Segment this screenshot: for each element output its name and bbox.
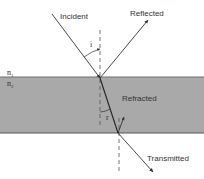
angle-i-label: i xyxy=(90,40,93,49)
transmitted-label: Transmitted xyxy=(147,154,189,163)
incident-ray xyxy=(52,14,100,78)
incident-label: Incident xyxy=(60,12,89,21)
transmitted-ray xyxy=(118,133,153,172)
reflected-ray xyxy=(100,20,148,78)
angle-r-label: r xyxy=(106,113,109,122)
angle-i-arc xyxy=(84,49,100,57)
n1-label: n1 xyxy=(7,68,14,78)
refracted-label: Refracted xyxy=(122,94,157,103)
optics-diagram: Incident Reflected Refracted Transmitted… xyxy=(0,0,204,179)
reflected-label: Reflected xyxy=(130,9,164,18)
